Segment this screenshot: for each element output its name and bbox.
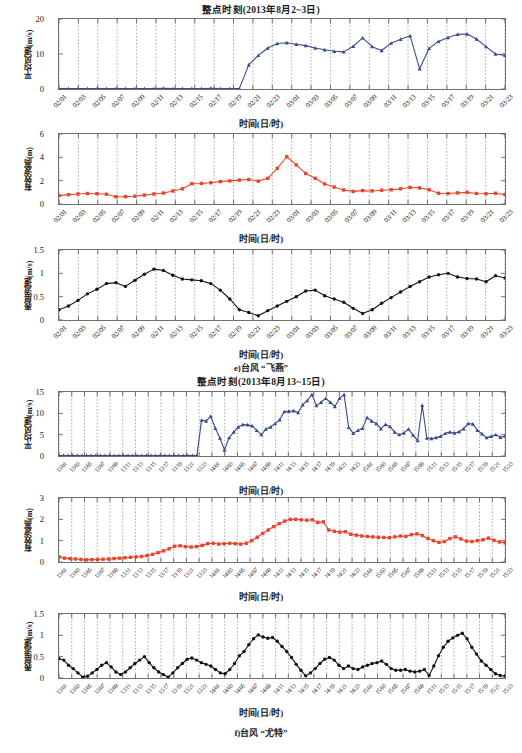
x-tick-label: 15/19: [475, 682, 489, 696]
data-point: [178, 544, 181, 547]
x-tick-label: 02/03: [72, 208, 89, 225]
data-point: [96, 558, 99, 561]
x-tick-label: 13/15: [144, 566, 158, 580]
x-tick-label: 03/23: [498, 93, 515, 110]
x-tick-label: 15/09: [411, 460, 425, 474]
data-point: [86, 675, 89, 678]
data-point: [134, 555, 137, 558]
data-point: [138, 658, 141, 661]
data-point: [211, 542, 214, 545]
data-point: [285, 650, 288, 653]
data-point: [305, 518, 308, 521]
data-point: [393, 535, 396, 538]
data-point: [404, 668, 407, 671]
data-point: [480, 659, 483, 662]
x-tick-label: 14/09: [258, 682, 272, 696]
x-tick-label: 15/23: [500, 682, 514, 696]
x-tick-label: 15/17: [462, 682, 476, 696]
data-point: [181, 662, 184, 665]
data-point: [67, 304, 70, 307]
x-tick-label: 02/17: [207, 324, 224, 341]
x-tick-label: 02/09: [130, 324, 147, 341]
plot-area-f-wind: [58, 391, 506, 457]
data-point: [295, 663, 298, 666]
data-point: [228, 668, 231, 671]
data-point: [389, 188, 392, 191]
x-tick-label: 02/11: [149, 208, 165, 224]
x-tick-label: 03/13: [401, 208, 418, 225]
x-tick-label: 15/13: [437, 682, 451, 696]
data-point: [318, 662, 321, 665]
x-tick-label: 13/01: [54, 566, 68, 580]
data-point: [342, 393, 346, 397]
data-point: [327, 528, 330, 531]
x-tick-label: 03/17: [440, 208, 457, 225]
x-tick-label: 03/13: [401, 324, 418, 341]
data-point: [404, 535, 407, 538]
data-point: [214, 668, 217, 671]
x-tick-label: 15/11: [424, 682, 437, 695]
data-point: [76, 299, 79, 302]
x-tick-label: 13/21: [182, 566, 196, 580]
data-point: [361, 189, 364, 192]
data-point: [176, 666, 179, 669]
y-tick-label: 1.5: [33, 245, 46, 255]
data-point: [143, 273, 146, 276]
data-point: [437, 192, 440, 195]
data-point: [233, 662, 236, 665]
data-point: [361, 36, 365, 40]
data-point: [332, 297, 335, 300]
data-series-line: [59, 157, 505, 197]
data-point: [195, 545, 198, 548]
x-tick-label: 14/17: [309, 566, 323, 580]
chart-svg-e-wind: [59, 19, 505, 89]
x-tick-label: 03/03: [304, 324, 321, 341]
data-point: [209, 282, 212, 285]
x-tick-label: 13/23: [195, 682, 209, 696]
y-tick-label: 0: [40, 451, 46, 461]
data-point: [337, 664, 340, 667]
data-point: [119, 673, 122, 676]
data-point: [332, 658, 335, 661]
data-point: [181, 187, 184, 190]
data-point: [456, 634, 459, 637]
data-point: [322, 520, 325, 523]
data-point: [276, 304, 279, 307]
data-point: [105, 282, 108, 285]
data-point: [285, 155, 288, 158]
data-point: [461, 632, 464, 635]
data-point: [418, 67, 422, 71]
data-point: [272, 525, 275, 528]
data-point: [437, 654, 440, 657]
data-point: [217, 542, 220, 545]
data-point: [366, 535, 369, 538]
data-point: [156, 551, 159, 554]
data-point: [74, 557, 77, 560]
x-tick-label: 03/21: [479, 93, 496, 110]
chart-title-f-wind: 整点时刻(2013年8月13~15日): [0, 376, 522, 389]
x-tick-label: 03/19: [459, 208, 476, 225]
y-tick-label: 1: [40, 268, 46, 278]
x-tick-label: 14/21: [335, 566, 349, 580]
data-point: [499, 674, 502, 677]
data-point: [465, 637, 468, 640]
data-point: [380, 659, 383, 662]
data-point: [145, 554, 148, 557]
x-tick-label: 02/15: [188, 93, 205, 110]
x-tick-label: 14/09: [258, 460, 272, 474]
data-point: [399, 187, 402, 190]
data-point: [361, 665, 364, 668]
x-tick-label: 03/07: [343, 93, 360, 110]
x-tick-label: 02/17: [207, 208, 224, 225]
x-tick-label: 13/05: [80, 566, 94, 580]
x-tick-label: 14/05: [233, 566, 247, 580]
data-point: [349, 533, 352, 536]
x-tick-label: 03/15: [421, 208, 438, 225]
y-tick-label: 0: [40, 199, 46, 209]
data-point: [266, 309, 269, 312]
x-tick-label: 02/15: [188, 208, 205, 225]
data-point: [324, 396, 328, 400]
x-tick-label: 15/05: [386, 460, 400, 474]
data-point: [200, 661, 203, 664]
x-tick-label: 15/13: [437, 566, 451, 580]
